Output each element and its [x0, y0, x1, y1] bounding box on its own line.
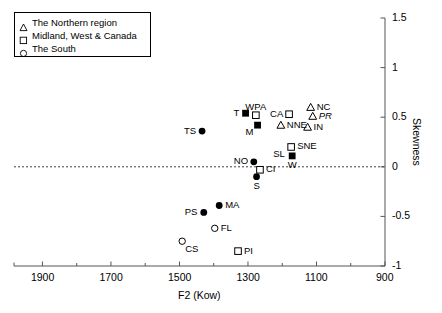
data-point-pi [235, 248, 242, 255]
data-point-m [254, 122, 261, 129]
square-open-icon [19, 31, 28, 40]
data-point-fl [212, 225, 218, 231]
chart-legend: The Northern region Midland, West & Cana… [14, 12, 151, 57]
point-label-wpa: WPA [245, 102, 266, 112]
data-point-sne [288, 144, 295, 151]
legend-item-northern: The Northern region [19, 16, 146, 29]
data-point-wpa [253, 112, 260, 119]
marker-triangle-open-icon [309, 112, 317, 119]
point-label-w: W [288, 160, 297, 170]
point-label-sl: SL [273, 149, 285, 159]
point-label-no: NO [234, 156, 248, 166]
circle-open-icon [19, 44, 28, 53]
point-label-ma: MA [225, 200, 239, 210]
data-point-no [250, 158, 257, 165]
scatter-plot-figure: The Northern region Midland, West & Cana… [0, 0, 442, 313]
x-tick-label-1300: 1300 [236, 272, 259, 283]
marker-circle-filled-icon [216, 202, 223, 209]
point-label-pr: PR [319, 111, 332, 121]
legend-item-midland: Midland, West & Canada [19, 29, 146, 42]
data-point-nc [307, 103, 315, 110]
y-tick-label-1: 1 [392, 62, 398, 73]
point-label-ca: CA [270, 109, 283, 119]
triangle-open-icon [19, 18, 28, 27]
y-axis-title: Skewness [411, 118, 423, 166]
point-label-pi: PI [244, 246, 253, 256]
y-tick-label-0_5: 0.5 [392, 111, 407, 122]
data-point-pr [309, 112, 317, 119]
point-label-ts: TS [184, 126, 196, 136]
point-label-cs: CS [185, 244, 198, 254]
data-point-ca [286, 111, 293, 118]
x-axis-title: F2 (Kow) [178, 289, 221, 301]
x-tick-label-900: 900 [376, 272, 394, 283]
point-label-ci: CI [266, 164, 276, 174]
x-tick-label-1900: 1900 [31, 272, 54, 283]
legend-label-midland: Midland, West & Canada [32, 31, 137, 41]
point-label-m: M [246, 127, 254, 137]
data-point-ps [200, 209, 207, 216]
marker-square-open-icon [288, 144, 295, 151]
x-tick-label-1100: 1100 [305, 272, 328, 283]
marker-square-filled-icon [254, 122, 261, 129]
data-point-ci [257, 166, 264, 173]
data-point-ma [216, 202, 223, 209]
marker-square-open-icon [257, 166, 264, 173]
y-tick-label-1_5: 1.5 [392, 12, 407, 23]
legend-item-south: The South [19, 42, 146, 55]
marker-circle-filled-icon [200, 209, 207, 216]
point-label-sne: SNE [297, 141, 317, 151]
point-label-ps: PS [185, 207, 198, 217]
point-label-in: IN [314, 122, 324, 132]
y-tick-label-neg1: -1 [392, 260, 401, 271]
data-point-nne [277, 121, 285, 128]
data-point-ts [199, 128, 206, 135]
x-tick-label-1500: 1500 [168, 272, 191, 283]
point-label-fl: FL [221, 223, 232, 233]
point-label-t: T [234, 108, 240, 118]
y-tick-label-neg0_5: -0.5 [392, 210, 410, 221]
marker-triangle-open-icon [307, 103, 315, 110]
y-tick-label-0: 0 [392, 161, 398, 172]
marker-square-open-icon [253, 112, 260, 119]
marker-circle-filled-icon [250, 158, 257, 165]
marker-square-open-icon [235, 248, 242, 255]
marker-triangle-open-icon [277, 121, 285, 128]
legend-label-south: The South [32, 44, 76, 54]
point-label-s: S [254, 181, 260, 191]
marker-square-open-icon [286, 111, 293, 118]
point-label-nne: NNE [287, 120, 307, 130]
marker-circle-filled-icon [199, 128, 206, 135]
legend-label-northern: The Northern region [32, 18, 117, 28]
x-tick-label-1700: 1700 [99, 272, 122, 283]
marker-circle-open-icon [212, 225, 218, 231]
